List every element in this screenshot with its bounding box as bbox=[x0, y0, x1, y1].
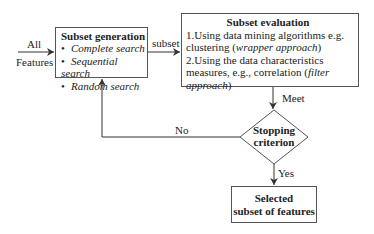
evaluation-line-4: measures, e.g., correlation (filter bbox=[186, 66, 358, 79]
bullet-icon: • bbox=[61, 55, 71, 68]
subset-evaluation-box: Subset evaluation 1.Using data mining al… bbox=[181, 13, 359, 87]
decision-label: Stopping criterion bbox=[240, 124, 308, 148]
input-label-all: All bbox=[27, 38, 41, 51]
list-item: •Random search bbox=[61, 80, 147, 93]
selected-subset-box: Selected subset of features bbox=[231, 186, 317, 223]
evaluation-line-5: approach) bbox=[186, 79, 358, 92]
input-label-features: Features bbox=[16, 56, 53, 69]
bullet-icon: • bbox=[61, 42, 71, 55]
edge-label-no: No bbox=[175, 124, 188, 137]
edge-label-subset: subset bbox=[152, 37, 180, 50]
evaluation-line-2: clustering (wrapper approach) bbox=[186, 41, 358, 54]
evaluation-line-3: 2.Using the data characteristics bbox=[186, 54, 358, 67]
list-item: •Sequential search bbox=[61, 55, 147, 80]
edge-label-meet: Meet bbox=[282, 92, 305, 105]
edge-label-yes: Yes bbox=[278, 167, 294, 180]
list-item: •Complete search bbox=[61, 42, 147, 55]
subset-generation-box: Subset generation •Complete search •Sequ… bbox=[55, 27, 148, 78]
subset-generation-title: Subset generation bbox=[61, 30, 147, 42]
evaluation-line-1: 1.Using data mining algorithms e.g. bbox=[186, 29, 358, 42]
subset-evaluation-title: Subset evaluation bbox=[186, 16, 358, 29]
bullet-icon: • bbox=[61, 80, 71, 93]
